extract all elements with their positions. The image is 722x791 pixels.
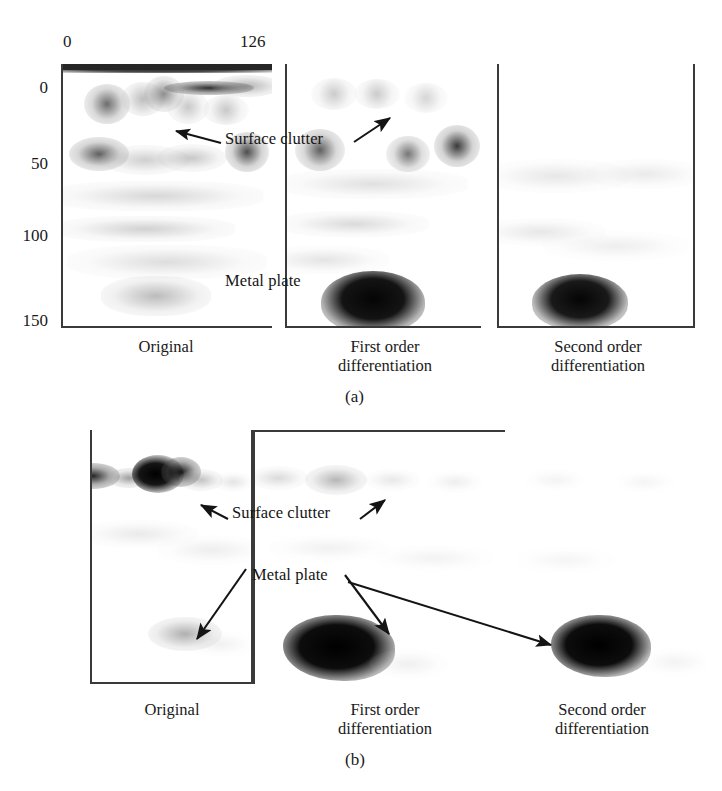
panel-a-second-order <box>497 64 695 328</box>
y-tick-0: 0 <box>18 79 48 96</box>
panel-a-second-order-left-rule <box>497 64 499 328</box>
y-tick-150: 150 <box>8 312 48 329</box>
panel-a-second-order-image <box>497 64 695 328</box>
figure-root: 0 126 0 50 100 150 <box>0 0 722 791</box>
annotation-surface-clutter-a: Surface clutter <box>225 129 323 149</box>
panel-b-first-order-left-rule <box>253 430 255 684</box>
caption-b-first-order: First order differentiation <box>300 700 470 739</box>
panel-a-original-bottom-rule <box>61 326 272 328</box>
panel-a-second-order-right-rule <box>693 64 695 328</box>
panel-a-first-order-bottom-rule <box>285 326 481 328</box>
panel-a-first-order <box>285 64 481 328</box>
panel-b-original <box>90 430 253 684</box>
panel-a-original-top-rule <box>61 64 272 70</box>
panel-b-first-order <box>253 430 505 684</box>
panel-b-first-order-image <box>253 430 505 684</box>
y-tick-100: 100 <box>8 227 48 244</box>
subfigure-letter-a: (a) <box>345 387 364 407</box>
panel-b-first-order-top-rule <box>253 430 505 432</box>
annotation-surface-clutter-b: Surface clutter <box>232 503 330 523</box>
panel-a-first-order-image <box>285 64 481 328</box>
panel-b-original-left-rule <box>90 430 92 684</box>
caption-a-second-order: Second order differentiation <box>508 337 688 376</box>
panel-b-second-order-image <box>505 430 705 684</box>
caption-a-original: Original <box>96 337 236 356</box>
x-tick-0: 0 <box>63 33 72 50</box>
subfigure-letter-b: (b) <box>345 750 365 770</box>
caption-a-first-order: First order differentiation <box>300 337 470 376</box>
panel-b-original-bottom-rule <box>90 682 253 684</box>
annotation-metal-plate-b: Metal plate <box>252 565 328 585</box>
y-tick-50: 50 <box>18 155 48 172</box>
x-tick-126: 126 <box>240 33 266 50</box>
caption-b-second-order: Second order differentiation <box>512 700 692 739</box>
panel-a-second-order-bottom-rule <box>497 326 695 328</box>
panel-a-original-left-rule <box>61 64 63 328</box>
panel-b-second-order <box>505 430 705 684</box>
annotation-metal-plate-a: Metal plate <box>225 271 301 291</box>
caption-b-original: Original <box>102 700 242 719</box>
panel-b-original-image <box>90 430 253 684</box>
